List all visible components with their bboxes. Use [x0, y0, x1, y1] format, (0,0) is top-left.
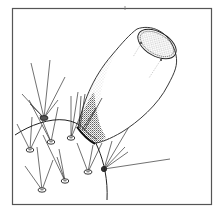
hair-tuft-1 — [22, 60, 65, 118]
hair-tuft-7 — [25, 147, 53, 190]
illustration-canvas: Line illustration of a flask-shaped stru… — [0, 0, 224, 219]
illustration-svg — [0, 0, 224, 219]
vessel — [77, 23, 181, 144]
hair-tuft-3 — [17, 117, 42, 150]
